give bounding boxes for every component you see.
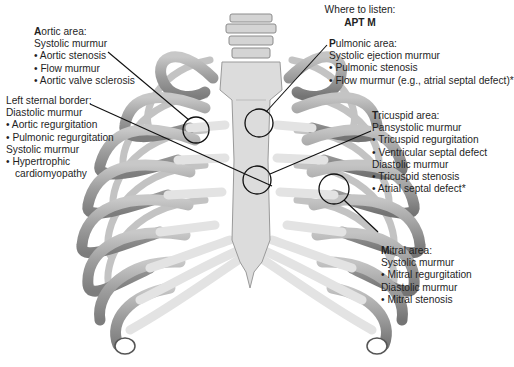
pulmonic-line: • Flow murmur (e.g., atrial septal defec… — [329, 75, 514, 87]
tricuspid-line: • Atrial septal defect* — [372, 183, 487, 195]
lsb-line: • Hypertrophic — [6, 156, 114, 168]
tricuspid-title: ricuspid area: — [378, 110, 439, 121]
mitral-line: Diastolic murmur — [381, 282, 472, 294]
pulmonic-line: • Pulmonic stenosis — [329, 62, 514, 74]
tricuspid-area-label: Tricuspid area: Pansystolic murmur • Tri… — [372, 110, 487, 195]
tricuspid-line: Pansystolic murmur — [372, 122, 487, 134]
aortic-area-label: Aortic area: Systolic murmur • Aortic st… — [34, 26, 135, 87]
pulmonic-title: ulmonic area: — [336, 38, 397, 49]
thoracic-vertebrae — [226, 14, 276, 58]
mitral-area-label: Mitral area: Systolic murmur • Mitral re… — [381, 245, 472, 306]
mitral-title: itral area: — [390, 245, 432, 256]
mitral-line: • Mitral stenosis — [381, 294, 472, 306]
where-to-listen-header: Where to listen: APT M — [292, 4, 428, 29]
pulmonic-initial: P — [329, 38, 336, 49]
aortic-title: ortic area: — [41, 26, 86, 37]
mitral-initial: M — [381, 245, 390, 256]
header-title: Where to listen: — [292, 4, 428, 17]
aortic-line: • Aortic stenosis — [34, 50, 135, 62]
lsb-line: Diastolic murmur — [6, 107, 114, 119]
tricuspid-line: Diastolic murmur — [372, 159, 487, 171]
left-sternal-border-label: Left sternal border: Diastolic murmur • … — [6, 95, 114, 180]
lsb-line: Systolic murmur — [6, 144, 114, 156]
pulmonic-line: Systolic ejection murmur — [329, 50, 514, 62]
header-mnemonic: APT M — [292, 17, 428, 30]
aortic-line: • Aortic valve sclerosis — [34, 75, 135, 87]
lsb-line: • Pulmonic regurgitation — [6, 132, 114, 144]
aortic-line: Systolic murmur — [34, 38, 135, 50]
lower-rib-tips — [115, 338, 387, 354]
tricuspid-line: • Tricuspid regurgitation — [372, 134, 487, 146]
mitral-line: • Mitral regurgitation — [381, 269, 472, 281]
lsb-line: • Aortic regurgitation — [6, 119, 114, 131]
aortic-line: • Flow murmur — [34, 63, 135, 75]
lsb-line: cardiomyopathy — [6, 168, 114, 180]
lsb-title: Left sternal border: — [6, 95, 114, 107]
mitral-line: Systolic murmur — [381, 257, 472, 269]
tricuspid-line: • Tricuspid stenosis — [372, 171, 487, 183]
pulmonic-area-label: Pulmonic area: Systolic ejection murmur … — [329, 38, 514, 87]
tricuspid-line: • Ventricular septal defect — [372, 147, 487, 159]
